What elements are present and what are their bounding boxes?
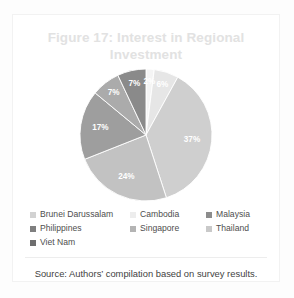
- legend-item[interactable]: Viet Nam: [30, 237, 130, 248]
- legend-item[interactable]: Malaysia: [206, 209, 268, 220]
- legend-item-label: Singapore: [140, 223, 179, 234]
- legend-item[interactable]: Singapore: [130, 223, 206, 234]
- pie-slice-label: 17%: [92, 123, 109, 132]
- legend-item[interactable]: Cambodia: [130, 209, 206, 220]
- pie-slice-label: 24%: [118, 172, 135, 181]
- divider: [25, 257, 267, 258]
- legend-item-label: Philippines: [40, 223, 82, 234]
- page-title: Figure 17: Interest in Regional Investme…: [43, 29, 249, 63]
- figure-card: Figure 17: Interest in Regional Investme…: [12, 14, 280, 282]
- pie-slice-label: 37%: [184, 135, 201, 144]
- legend-item[interactable]: Philippines: [30, 223, 130, 234]
- legend-swatch-icon: [130, 212, 136, 218]
- legend: Brunei DarussalamCambodiaMalaysiaPhilipp…: [37, 209, 261, 248]
- legend-swatch-icon: [30, 226, 36, 232]
- legend-swatch-icon: [30, 240, 36, 246]
- legend-swatch-icon: [30, 212, 36, 218]
- legend-swatch-icon: [206, 226, 212, 232]
- legend-item-label: Malaysia: [216, 209, 250, 220]
- legend-item-label: Cambodia: [140, 209, 179, 220]
- legend-item-label: Viet Nam: [40, 237, 75, 248]
- source-note: Source: Authors’ compilation based on su…: [27, 267, 265, 280]
- legend-swatch-icon: [130, 226, 136, 232]
- pie-slice-label: 7%: [129, 79, 142, 88]
- legend-item[interactable]: Brunei Darussalam: [30, 209, 130, 220]
- pie-chart-svg: 2%6%37%24%17%7%7%: [56, 67, 236, 203]
- pie-slice-label: 7%: [108, 88, 121, 97]
- pie-slice-label: 6%: [156, 80, 169, 89]
- legend-swatch-icon: [206, 212, 212, 218]
- pie-slice-label: 2%: [143, 77, 156, 86]
- legend-item-label: Thailand: [216, 223, 249, 234]
- pie-chart: 2%6%37%24%17%7%7%: [13, 67, 279, 203]
- legend-item-label: Brunei Darussalam: [40, 209, 113, 220]
- legend-item[interactable]: Thailand: [206, 223, 268, 234]
